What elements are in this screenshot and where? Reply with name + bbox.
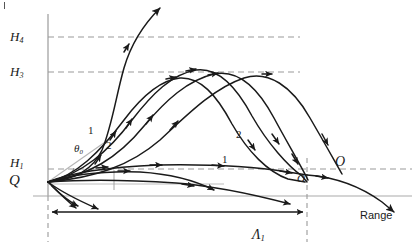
- y-tick-h4-sub: 4: [19, 36, 23, 45]
- terminal-label-o-large: O: [335, 155, 345, 169]
- curve-label-left-1: 1: [88, 125, 94, 136]
- lambda-dimension-label: Λ1: [252, 228, 265, 243]
- arrowhead-descend-2: [272, 134, 279, 144]
- curve-label-right-2: 2: [236, 129, 242, 140]
- trajectory-figure: H4 H3 H1 Q θ0 1 2 2 1 O O Λ1 Range: [0, 0, 419, 251]
- origin-label-q: Q: [9, 173, 20, 188]
- arrowhead-flat-a: [96, 167, 108, 168]
- trajectory-plot-svg: [0, 0, 419, 251]
- curve-label-left-2: 2: [106, 140, 112, 151]
- y-tick-h1-base: H: [10, 155, 19, 170]
- curve-label-right-1: 1: [222, 154, 228, 165]
- y-tick-h3-sub: 3: [19, 71, 23, 80]
- range-axis-label: Range: [360, 210, 392, 221]
- arrowhead-flat-c: [212, 165, 224, 166]
- arrowhead-tail-start: [316, 176, 328, 178]
- arrowhead-flat-d: [280, 171, 292, 173]
- theta-angle-label: θ0: [74, 143, 83, 156]
- arrowhead-steep-mid-high: [124, 44, 129, 52]
- y-tick-h1-sub: 1: [19, 162, 23, 171]
- y-tick-h3-base: H: [10, 64, 19, 79]
- y-tick-label-h4: H4: [10, 30, 23, 45]
- y-tick-h4-base: H: [10, 29, 19, 44]
- arrowhead-arc4-up: [170, 121, 178, 130]
- lambda-sub: 1: [260, 233, 264, 243]
- theta-sub: 0: [79, 148, 82, 155]
- arrowhead-arc2-up: [126, 119, 132, 128]
- y-tick-label-h3: H3: [10, 65, 23, 80]
- curve-steep-ascending: [48, 8, 160, 182]
- y-tick-label-h1: H1: [10, 156, 23, 171]
- curve-outer-tail: [307, 175, 394, 212]
- terminal-label-o-small: O: [297, 173, 305, 184]
- arrowhead-arc3-up: [146, 115, 153, 124]
